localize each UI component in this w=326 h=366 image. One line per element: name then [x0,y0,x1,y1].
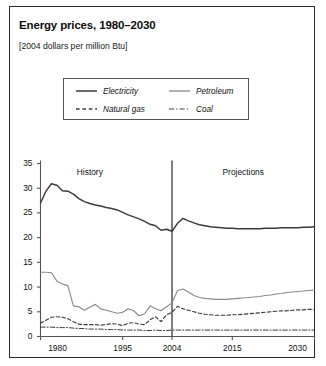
y-tick-label: 35 [11,158,33,168]
plot-svg [0,0,326,366]
x-tick-label: 2030 [278,343,318,353]
x-tick-label: 2015 [212,343,252,353]
annotation-history: History [66,167,114,177]
y-tick-label: 10 [11,282,33,292]
series-line-coal [41,327,315,330]
series-line-petroleum [41,272,315,316]
plot-area: 0510152025303519801995200420152030Histor… [0,0,326,366]
y-tick-label: 20 [11,232,33,242]
annotation-projections: Projections [219,167,267,177]
y-tick-label: 15 [11,257,33,267]
y-tick-label: 30 [11,183,33,193]
x-tick-label: 1995 [103,343,143,353]
y-tick-label: 25 [11,207,33,217]
x-tick-label: 2004 [152,343,192,353]
series-line-electricity [41,184,315,231]
y-tick-label: 0 [11,331,33,341]
y-tick-label: 5 [11,306,33,316]
x-tick-label: 1980 [38,343,78,353]
